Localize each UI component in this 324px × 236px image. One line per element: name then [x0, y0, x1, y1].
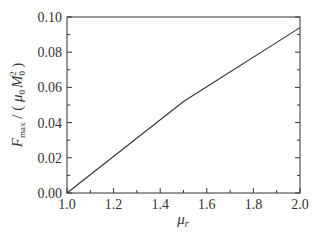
x-tick-label: 2.0 [291, 197, 309, 212]
y-tick-label: 0.08 [38, 45, 63, 60]
x-tick-label: 1.6 [198, 197, 216, 212]
chart: 1.01.21.41.61.82.00.000.020.040.060.080.… [0, 0, 324, 236]
x-tick-label: 1.4 [151, 197, 169, 212]
axis-ticks [67, 17, 300, 193]
y-tick-label: 0.00 [38, 186, 63, 201]
y-tick-label: 0.04 [38, 116, 63, 131]
x-tick-label: 1.8 [245, 197, 263, 212]
y-axis-title: Fmax / ( μ0M02 ) [8, 63, 27, 148]
y-tick-label: 0.02 [38, 151, 63, 166]
y-tick-label: 0.10 [38, 10, 63, 25]
data-line [67, 28, 300, 193]
x-tick-label: 1.2 [105, 197, 123, 212]
x-axis-title: μr [176, 211, 189, 229]
plot-frame [67, 17, 300, 193]
y-tick-label: 0.06 [38, 80, 63, 95]
tick-labels: 1.01.21.41.61.82.00.000.020.040.060.080.… [38, 10, 309, 212]
